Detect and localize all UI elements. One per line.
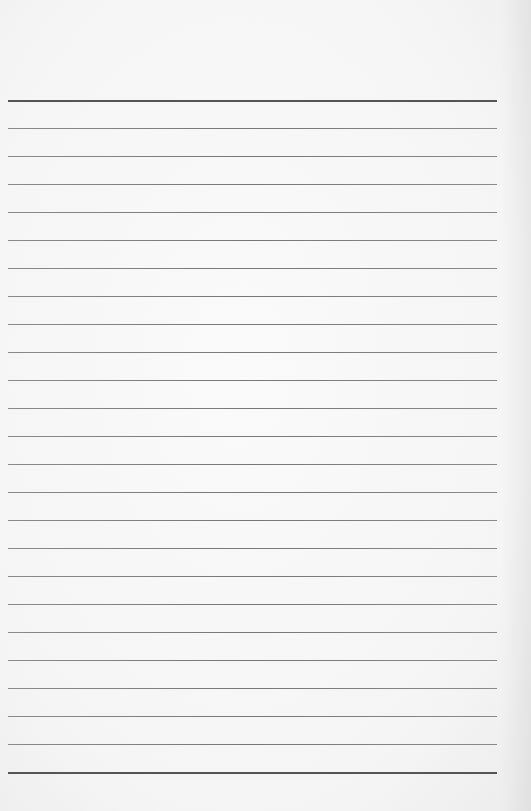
ruled-line bbox=[8, 324, 497, 325]
ruled-line bbox=[8, 436, 497, 437]
ruled-line bbox=[8, 128, 497, 129]
ruled-line bbox=[8, 772, 497, 774]
ruled-line bbox=[8, 520, 497, 521]
ruled-line bbox=[8, 632, 497, 633]
ruled-line bbox=[8, 268, 497, 269]
ruled-line bbox=[8, 716, 497, 717]
ruled-line bbox=[8, 576, 497, 577]
ruled-line bbox=[8, 240, 497, 241]
ruled-line bbox=[8, 604, 497, 605]
lined-paper bbox=[0, 0, 531, 811]
ruled-line bbox=[8, 660, 497, 661]
ruled-line bbox=[8, 184, 497, 185]
ruled-line bbox=[8, 408, 497, 409]
ruled-line bbox=[8, 156, 497, 157]
ruled-line bbox=[8, 688, 497, 689]
ruled-line bbox=[8, 548, 497, 549]
ruled-line bbox=[8, 744, 497, 745]
ruled-line bbox=[8, 380, 497, 381]
ruled-line bbox=[8, 296, 497, 297]
ruled-line bbox=[8, 464, 497, 465]
ruled-line bbox=[8, 212, 497, 213]
ruled-line bbox=[8, 100, 497, 102]
ruled-line bbox=[8, 352, 497, 353]
ruled-line bbox=[8, 492, 497, 493]
